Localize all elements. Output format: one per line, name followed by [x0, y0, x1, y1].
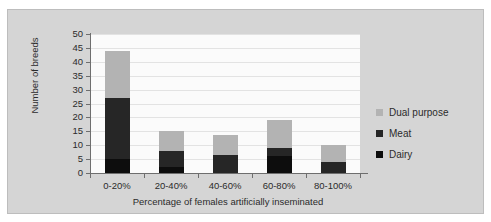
bar-group[interactable] — [105, 34, 130, 173]
bar-group[interactable] — [321, 34, 346, 173]
plot-area — [90, 34, 360, 173]
y-axis-tick — [86, 34, 90, 35]
y-axis-line — [90, 33, 91, 174]
x-axis-title: Percentage of females artificially insem… — [68, 196, 388, 207]
bar-group[interactable] — [213, 34, 238, 173]
y-axis-tick-labels: 05101520253035404550 — [58, 10, 83, 215]
bar-segment[interactable] — [159, 131, 184, 150]
bar-segment[interactable] — [105, 98, 130, 159]
bar-segment[interactable] — [213, 155, 238, 173]
y-axis-tick-label: 50 — [58, 29, 83, 38]
x-axis-tick-label: 40-60% — [198, 180, 252, 191]
x-axis-tick — [144, 174, 145, 178]
x-axis-line — [90, 173, 368, 174]
y-axis-tick-label: 20 — [58, 112, 83, 121]
y-axis-tick — [86, 145, 90, 146]
y-axis-tick-label: 0 — [58, 168, 83, 177]
y-axis-tick-label: 30 — [58, 85, 83, 94]
y-axis-tick — [86, 48, 90, 49]
bar-group[interactable] — [267, 34, 292, 173]
y-axis-tick — [86, 159, 90, 160]
y-axis-tick — [86, 104, 90, 105]
y-axis-tick-label: 35 — [58, 71, 83, 80]
y-axis-tick-label: 45 — [58, 43, 83, 52]
legend-item[interactable]: Meat — [376, 123, 481, 144]
legend-swatch-icon — [376, 151, 383, 158]
chart-figure: 05101520253035404550 Number of breeds 0-… — [7, 9, 484, 214]
x-axis-tick — [306, 174, 307, 178]
x-axis-tick — [360, 174, 361, 178]
x-axis-tick-labels: 0-20%20-40%40-60%60-80%80-100% — [90, 180, 368, 194]
bar-segment[interactable] — [321, 162, 346, 173]
y-axis-tick-label: 5 — [58, 154, 83, 163]
y-axis-tick-label: 25 — [58, 99, 83, 108]
legend-label: Dual purpose — [389, 107, 448, 118]
bar-group[interactable] — [159, 34, 184, 173]
y-axis-tick — [86, 62, 90, 63]
bar-segment[interactable] — [267, 148, 292, 156]
x-axis-tick-label: 0-20% — [90, 180, 144, 191]
bar-segment[interactable] — [159, 151, 184, 168]
legend-item[interactable]: Dual purpose — [376, 102, 481, 123]
y-axis-tick — [86, 117, 90, 118]
legend-label: Dairy — [389, 149, 412, 160]
x-axis-tick — [252, 174, 253, 178]
y-axis-tick — [86, 76, 90, 77]
y-axis-title: Number of breeds — [29, 21, 40, 131]
y-axis-tick-label: 40 — [58, 57, 83, 66]
legend-swatch-icon — [376, 130, 383, 137]
bar-segment[interactable] — [321, 145, 346, 162]
legend-label: Meat — [389, 128, 411, 139]
bar-segment[interactable] — [105, 51, 130, 98]
chart-legend: Dual purposeMeatDairy — [376, 102, 481, 165]
x-axis-tick-label: 80-100% — [306, 180, 360, 191]
chart-screenshot: 05101520253035404550 Number of breeds 0-… — [0, 0, 491, 222]
y-axis-tick-label: 10 — [58, 140, 83, 149]
legend-item[interactable]: Dairy — [376, 144, 481, 165]
bar-segment[interactable] — [267, 156, 292, 173]
bar-segment[interactable] — [105, 159, 130, 173]
bar-segment[interactable] — [267, 120, 292, 148]
y-axis-tick — [86, 131, 90, 132]
x-axis-tick — [90, 174, 91, 178]
legend-swatch-icon — [376, 109, 383, 116]
x-axis-tick-label: 20-40% — [144, 180, 198, 191]
y-axis-tick — [86, 90, 90, 91]
x-axis-tick-label: 60-80% — [252, 180, 306, 191]
y-axis-tick-label: 15 — [58, 126, 83, 135]
bar-segment[interactable] — [213, 135, 238, 154]
x-axis-tick — [198, 174, 199, 178]
